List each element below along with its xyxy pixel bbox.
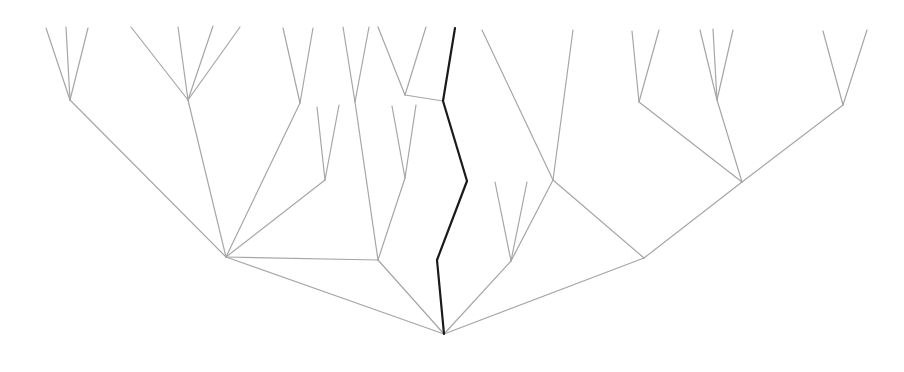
tree-branch	[317, 107, 325, 180]
tree-branch	[378, 178, 405, 260]
tree-branch	[325, 105, 339, 180]
tree-branch	[378, 27, 405, 95]
tree-branch	[355, 102, 378, 260]
tree-branch	[495, 182, 511, 261]
tree-branch	[188, 27, 240, 100]
tree-branch	[644, 182, 742, 258]
normal-branch-group	[46, 26, 867, 334]
tree-branch	[283, 28, 300, 103]
tree-branch	[742, 105, 843, 182]
tree-branch	[717, 100, 742, 182]
tree-branch	[343, 27, 355, 102]
tree-branch	[392, 106, 405, 178]
tree-diagram-canvas	[0, 0, 904, 372]
tree-branch	[226, 103, 300, 257]
tree-branch	[639, 102, 742, 182]
tree-branch	[553, 180, 644, 258]
tree-branch	[355, 27, 369, 102]
tree-branch	[226, 257, 444, 334]
tree-branch	[632, 31, 639, 102]
tree-branch	[511, 182, 527, 261]
tree-branch	[226, 257, 378, 260]
tree-figure	[0, 0, 904, 372]
tree-branch	[444, 258, 644, 334]
tree-branch	[482, 30, 553, 180]
tree-branch	[70, 28, 88, 100]
tree-branch	[717, 30, 733, 100]
tree-branch	[405, 95, 443, 101]
tree-branch	[188, 100, 226, 257]
highlighted-path	[437, 28, 467, 334]
tree-branch	[405, 27, 426, 95]
tree-branch	[405, 105, 416, 178]
tree-branch	[511, 180, 553, 261]
tree-branch	[444, 261, 511, 334]
tree-branch	[300, 28, 313, 103]
tree-branch	[188, 26, 213, 100]
highlight-branch-group	[437, 28, 467, 334]
tree-branch	[843, 30, 867, 105]
tree-branch	[70, 100, 226, 257]
tree-branch	[226, 180, 325, 257]
tree-branch	[639, 30, 659, 102]
tree-branch	[553, 30, 573, 180]
tree-branch	[823, 31, 843, 105]
